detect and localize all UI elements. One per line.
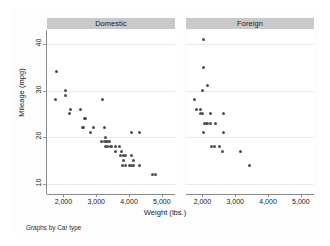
graph-note: Graphs by Car type [26, 224, 81, 231]
data-point [201, 89, 204, 92]
data-point [79, 108, 82, 111]
data-point [132, 159, 135, 162]
panel-title-domestic: Domestic [47, 18, 175, 29]
y-axis-title: Mileage (mpg) [17, 38, 26, 148]
y-axis-tick [43, 91, 46, 92]
data-point [209, 112, 212, 115]
y-axis-tick-label: 10 [35, 174, 42, 190]
y-axis-tick [43, 137, 46, 138]
data-point [138, 164, 141, 167]
x-axis-tick [129, 194, 130, 197]
data-point [118, 145, 121, 148]
data-point [69, 108, 72, 111]
x-axis-tick-label: 2,000 [48, 198, 78, 205]
x-axis-line-right [186, 194, 314, 195]
data-point [108, 140, 111, 143]
data-point [202, 66, 205, 69]
x-axis-tick-label: 5,000 [286, 198, 316, 205]
plot-panel-domestic [47, 30, 175, 193]
data-point [103, 126, 106, 129]
x-axis-tick [162, 194, 163, 197]
data-point [222, 112, 225, 115]
x-axis-tick-label: 4,000 [114, 198, 144, 205]
y-axis-tick-label: 40 [35, 34, 42, 50]
data-point [214, 122, 217, 125]
gridline [186, 91, 314, 92]
data-point [195, 108, 198, 111]
data-point [193, 98, 196, 101]
gridline [186, 184, 314, 185]
data-point [132, 164, 135, 167]
data-point [68, 112, 71, 115]
data-point [154, 173, 157, 176]
panel-title-foreign: Foreign [186, 18, 314, 29]
data-point [104, 136, 107, 139]
data-point [122, 159, 125, 162]
x-axis-tick [96, 194, 97, 197]
data-point [239, 150, 242, 153]
data-point [210, 145, 213, 148]
data-point [130, 131, 133, 134]
x-axis-tick-label: 5,000 [147, 198, 177, 205]
data-point [84, 117, 87, 120]
data-point [199, 108, 202, 111]
data-point [101, 98, 104, 101]
data-point [222, 131, 225, 134]
data-point [138, 131, 141, 134]
data-point [82, 126, 85, 129]
x-axis-tick [235, 194, 236, 197]
x-axis-tick [301, 194, 302, 197]
data-point [202, 131, 205, 134]
data-point [54, 98, 57, 101]
data-point [55, 70, 58, 73]
data-point [64, 94, 67, 97]
x-axis-line-left [47, 194, 175, 195]
data-point [213, 145, 216, 148]
data-point [114, 150, 117, 153]
plot-panel-foreign [186, 30, 314, 193]
data-point [120, 150, 123, 153]
y-axis-tick-label: 20 [35, 128, 42, 144]
y-axis-tick [43, 44, 46, 45]
data-point [114, 145, 117, 148]
x-axis-tick-label: 4,000 [253, 198, 283, 205]
data-point [130, 154, 133, 157]
data-point [221, 150, 224, 153]
x-axis-title: Weight (lbs.) [0, 208, 330, 217]
gridline [47, 44, 175, 45]
gridline [186, 137, 314, 138]
x-axis-tick [268, 194, 269, 197]
data-point [206, 84, 209, 87]
stata-graph: Mileage (mpg) Domestic Foreign 10203040 … [0, 0, 330, 246]
data-point [218, 145, 221, 148]
x-axis-tick [202, 194, 203, 197]
data-point [110, 145, 113, 148]
data-point [202, 38, 205, 41]
data-point [89, 131, 92, 134]
data-point [201, 112, 204, 115]
data-point [209, 122, 212, 125]
data-point [248, 164, 251, 167]
data-point [64, 89, 67, 92]
x-axis-tick-label: 3,000 [220, 198, 250, 205]
gridline [47, 137, 175, 138]
data-point [124, 154, 127, 157]
data-point [92, 126, 95, 129]
gridline [47, 184, 175, 185]
y-axis-tick [43, 184, 46, 185]
x-axis-tick-label: 2,000 [187, 198, 217, 205]
gridline [186, 44, 314, 45]
x-axis-tick-label: 3,000 [81, 198, 111, 205]
data-point [124, 164, 127, 167]
x-axis-tick [63, 194, 64, 197]
y-axis-tick-label: 30 [35, 81, 42, 97]
